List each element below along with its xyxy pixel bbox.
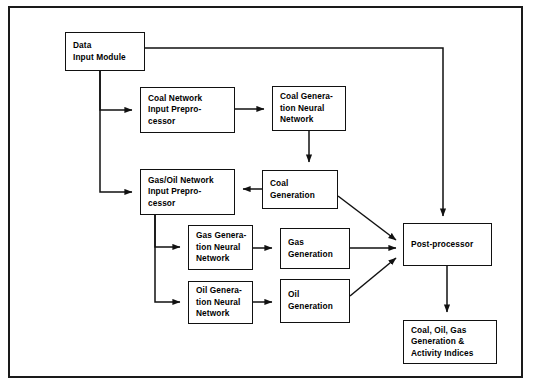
- node-line: Data: [73, 40, 141, 52]
- node-coal-generation[interactable]: Coal Generation: [262, 170, 338, 209]
- node-line: Coal Genera-: [280, 91, 342, 103]
- node-gas-oil-network-input-preprocessor[interactable]: Gas/Oil Network Input Prepro- cessor: [140, 169, 235, 215]
- node-post-processor[interactable]: Post-processor: [403, 223, 492, 266]
- node-line: Network: [280, 114, 342, 126]
- node-line: Input Prepro-: [148, 104, 231, 116]
- node-line: Input Module: [73, 52, 141, 64]
- node-gas-generation-neural-network[interactable]: Gas Genera- tion Neural Network: [188, 225, 253, 270]
- node-coal-network-input-preprocessor[interactable]: Coal Network Input Prepro- cessor: [140, 87, 235, 133]
- node-output-indices[interactable]: Coal, Oil, Gas Generation & Activity Ind…: [403, 320, 497, 364]
- node-line: tion Neural: [280, 103, 342, 115]
- node-line: Generation: [288, 301, 346, 313]
- node-line: Network: [196, 253, 249, 265]
- node-data-input-module[interactable]: Data Input Module: [65, 32, 145, 71]
- node-line: Gas Genera-: [196, 230, 249, 242]
- node-oil-generation-neural-network[interactable]: Oil Genera- tion Neural Network: [188, 281, 253, 324]
- node-line: Oil Genera-: [196, 285, 249, 297]
- node-line: cessor: [148, 198, 231, 210]
- node-gas-generation[interactable]: Gas Generation: [280, 228, 350, 269]
- node-line: Generation: [288, 249, 346, 261]
- node-line: tion Neural: [196, 242, 249, 254]
- node-line: Network: [196, 308, 249, 320]
- node-line: Generation: [270, 190, 334, 202]
- node-line: Coal Network: [148, 93, 231, 105]
- flowchart-canvas: Data Input Module Coal Network Input Pre…: [0, 0, 534, 391]
- node-line: Input Prepro-: [148, 186, 231, 198]
- node-line: Post-processor: [411, 239, 488, 251]
- node-line: tion Neural: [196, 297, 249, 309]
- node-line: Oil: [288, 289, 346, 301]
- node-line: Coal, Oil, Gas: [411, 325, 493, 337]
- node-line: Gas/Oil Network: [148, 175, 231, 187]
- node-line: Activity Indices: [411, 348, 493, 360]
- node-line: cessor: [148, 116, 231, 128]
- node-oil-generation[interactable]: Oil Generation: [280, 279, 350, 323]
- node-coal-generation-neural-network[interactable]: Coal Genera- tion Neural Network: [272, 86, 346, 131]
- node-line: Coal: [270, 178, 334, 190]
- node-line: Gas: [288, 237, 346, 249]
- node-line: Generation &: [411, 336, 493, 348]
